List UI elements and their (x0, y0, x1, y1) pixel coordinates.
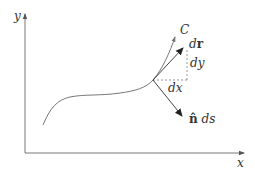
x-axis-label: x (237, 156, 244, 170)
nds-label-n: n̂ (189, 112, 198, 126)
nds-label-ds: ds (198, 112, 216, 126)
axes (25, 14, 244, 153)
dr-label-r: r (197, 37, 204, 51)
tangent-vector-dr (153, 48, 183, 80)
y-axis-label: y (13, 9, 21, 23)
curve-label: C (180, 23, 189, 37)
dx-label: dx (168, 81, 183, 95)
dy-label: dy (190, 56, 205, 70)
dr-label: dr (189, 37, 204, 51)
nds-label: n̂ ds (189, 112, 215, 126)
curve-diagram: y x C dr dy dx n̂ ds (0, 0, 255, 173)
curve-c (43, 37, 175, 125)
